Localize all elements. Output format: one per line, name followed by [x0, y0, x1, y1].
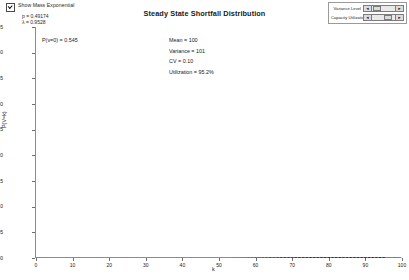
x-tick-mark	[182, 258, 183, 261]
stat-mean: Mean = 100	[169, 35, 214, 46]
x-tick-mark	[292, 258, 293, 261]
y-tick-label: 0.045	[0, 24, 3, 30]
x-tick-mark	[365, 258, 366, 261]
x-tick-mark	[219, 258, 220, 261]
x-tick-mark	[73, 258, 74, 261]
capacity-utilization-track[interactable]	[372, 15, 395, 20]
stat-cv: CV = 0.10	[169, 56, 214, 67]
y-tick-label: 0.000	[0, 255, 3, 261]
annotation-mass-at-zero: P(v=0) = 0.545	[42, 37, 78, 43]
x-tick-label: 50	[216, 262, 222, 268]
stat-utilization: Utilization = 95.2%	[169, 67, 214, 78]
variance-level-label: Variance Level	[331, 6, 361, 12]
capacity-utilization-left-arrow-icon[interactable]: ◄	[364, 15, 372, 20]
x-tick-label: 90	[363, 262, 369, 268]
capacity-utilization-slider[interactable]: ◄ ►	[363, 14, 404, 21]
x-tick-mark	[402, 258, 403, 261]
x-tick-mark	[36, 258, 37, 261]
capacity-utilization-thumb[interactable]	[384, 15, 392, 20]
capacity-utilization-label: Capacity Utilization	[331, 15, 361, 21]
stat-variance: Variance = 101	[169, 46, 214, 57]
variance-level-slider[interactable]: ◄ ►	[363, 5, 404, 12]
y-tick-label: 0.015	[0, 178, 3, 184]
x-tick-label: 100	[398, 262, 406, 268]
x-tick-mark	[146, 258, 147, 261]
x-tick-label: 70	[289, 262, 295, 268]
capacity-utilization-right-arrow-icon[interactable]: ►	[395, 15, 403, 20]
y-tick-label: 0.040	[0, 49, 3, 55]
parameter-lambda: λ = 0.9528	[22, 19, 74, 25]
y-tick-label: 0.005	[0, 229, 3, 235]
variance-level-left-arrow-icon[interactable]: ◄	[364, 6, 372, 11]
x-tick-label: 10	[70, 262, 76, 268]
x-tick-label: 0	[35, 262, 38, 268]
x-tick-mark	[329, 258, 330, 261]
x-axis-label: k	[212, 266, 215, 272]
variance-level-slider-row[interactable]: Variance Level ◄ ►	[331, 5, 404, 12]
x-tick-mark	[109, 258, 110, 261]
x-tick-label: 30	[143, 262, 149, 268]
x-tick-mark	[256, 258, 257, 261]
y-tick-label: 0.010	[0, 203, 3, 209]
capacity-utilization-slider-row[interactable]: Capacity Utilization ◄ ►	[331, 14, 404, 21]
statistics-block: Mean = 100 Variance = 101 CV = 0.10 Util…	[169, 35, 214, 77]
variance-level-thumb[interactable]	[373, 6, 381, 11]
y-tick-label: 0.030	[0, 101, 3, 107]
plot-background	[36, 27, 401, 257]
x-tick-label: 20	[106, 262, 112, 268]
y-tick-label: 0.035	[0, 75, 3, 81]
y-tick-label: 0.025	[0, 126, 3, 132]
y-tick-label: 0.020	[0, 152, 3, 158]
y-tick-mark	[32, 258, 35, 259]
show-mass-exponential-label: Show Mass Exponential	[18, 2, 74, 8]
slider-panel: Variance Level ◄ ► Capacity Utilization …	[328, 2, 407, 24]
variance-level-right-arrow-icon[interactable]: ►	[395, 6, 403, 11]
x-tick-label: 60	[253, 262, 259, 268]
x-tick-label: 40	[180, 262, 186, 268]
x-tick-label: 80	[326, 262, 332, 268]
plot-area: P(v=0) = 0.545 Mean = 100 Variance = 101…	[35, 27, 401, 258]
chart-window: Show Mass Exponential p = 0.49174 λ = 0.…	[0, 0, 409, 280]
variance-level-track[interactable]	[372, 6, 395, 11]
